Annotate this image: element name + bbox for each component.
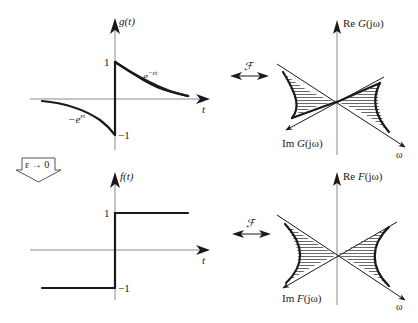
decay-curve-positive <box>115 62 188 96</box>
fourier-symbol: ℱ <box>244 60 255 72</box>
fourier-transform-arrow-top: ℱ <box>230 60 269 80</box>
im-axis-label: Im F(jω) <box>282 292 322 305</box>
plot-F-of-jw: Re F(jω) Im F(jω) ω <box>277 170 405 312</box>
omega-axis-label: ω <box>396 149 403 160</box>
t-axis-label: t <box>202 103 206 115</box>
t-axis-label: t <box>202 254 206 266</box>
g-axis-label: g(t) <box>119 15 135 28</box>
fourier-transform-arrow-bottom: ℱ <box>232 217 271 238</box>
plot-G-of-jw: Re G(jω) Im G(jω) ω <box>277 17 405 160</box>
tick-label-1: 1 <box>104 207 110 219</box>
re-axis-label: Re G(jω) <box>343 17 384 30</box>
decay-curve-positive-smooth <box>115 62 188 96</box>
tick-label-minus-1: −1 <box>118 129 130 141</box>
limit-arrow: ε → 0 <box>16 158 61 182</box>
curve-label-e-minus-et: e−εt <box>143 69 158 82</box>
re-axis-label: Re F(jω) <box>343 170 383 183</box>
im-axis-label: Im G(jω) <box>282 137 323 150</box>
omega-axis-label: ω <box>396 301 403 312</box>
fourier-symbol: ℱ <box>246 217 257 229</box>
plot-f-of-t: f(t) t 1 −1 <box>30 170 210 300</box>
omega-axis <box>277 215 405 300</box>
plot-g-of-t: g(t) t 1 −1 e−εt −eεt <box>30 15 210 150</box>
curve-label-minus-e-et: −eεt <box>68 112 86 125</box>
f-axis-label: f(t) <box>120 170 134 183</box>
tick-label-minus-1: −1 <box>118 282 130 294</box>
tick-label-1: 1 <box>104 56 110 68</box>
figure-canvas: g(t) t 1 −1 e−εt −eεt Re G(jω) <box>0 0 418 323</box>
limit-label: ε → 0 <box>25 159 49 170</box>
